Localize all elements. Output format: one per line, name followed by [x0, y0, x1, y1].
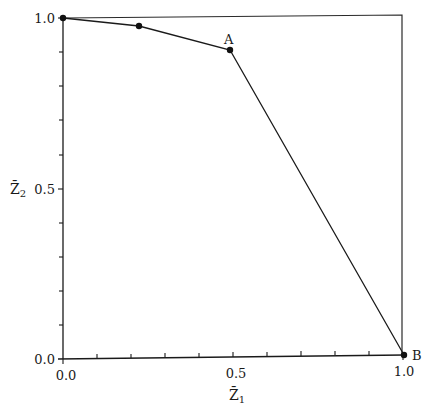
- x-tick-0: 0.0: [56, 368, 77, 383]
- y-axis-title: Z̄2: [10, 180, 26, 199]
- x-tick-1: 1.0: [394, 364, 415, 379]
- markers: [60, 15, 407, 358]
- y-tick-1: 1.0: [34, 11, 55, 26]
- marker-mid: [136, 23, 142, 29]
- frontier-line: [63, 18, 404, 355]
- y-axis-ticks: [58, 18, 63, 325]
- chart: A B 1.0 0.5 0.0 0.0 0.5 1.0 Z̄2 Z̄1: [0, 0, 430, 410]
- x-axis-title: Z̄1: [229, 386, 245, 405]
- x-axis: [58, 355, 404, 359]
- marker-origin-top: [60, 15, 66, 21]
- y-tick-05: 0.5: [34, 182, 55, 197]
- x-tick-05: 0.5: [226, 366, 247, 381]
- axes: [58, 18, 404, 359]
- marker-b: [401, 352, 407, 358]
- box-line: [63, 15, 402, 355]
- marker-a: [227, 47, 233, 53]
- y-tick-0: 0.0: [34, 352, 55, 367]
- label-a: A: [223, 32, 234, 47]
- label-b: B: [412, 348, 422, 363]
